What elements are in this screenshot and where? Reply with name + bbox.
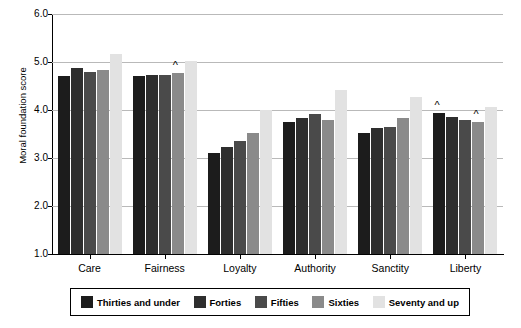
x-axis-tick-label: Sanctity (350, 262, 430, 274)
bar (185, 61, 197, 254)
bar-group (208, 14, 272, 254)
bar (260, 110, 272, 254)
y-axis-tick-label: 5.0 (6, 56, 48, 67)
legend-swatch (194, 296, 206, 308)
legend-swatch (81, 296, 93, 308)
bar (159, 75, 171, 254)
bar (208, 153, 220, 254)
bar (71, 68, 83, 254)
significance-marker: ^ (434, 100, 439, 111)
legend-label: Sixties (328, 297, 359, 308)
y-axis-tick-mark (48, 254, 52, 255)
bar-group: ^^ (433, 14, 497, 254)
bar (335, 90, 347, 254)
x-axis-tick-label: Fairness (125, 262, 205, 274)
bar-chart: Moral foundation score 1.02.03.04.05.06.… (0, 0, 521, 328)
legend-item: Fifties (255, 296, 299, 308)
significance-marker: ^ (173, 60, 178, 71)
legend-swatch (373, 296, 385, 308)
bar-group (58, 14, 122, 254)
x-axis-tick-mark (165, 255, 166, 259)
legend-label: Forties (210, 297, 242, 308)
bar (433, 113, 445, 254)
bar (459, 120, 471, 254)
bar (472, 122, 484, 254)
legend-item: Thirties and under (81, 296, 180, 308)
y-axis-title: Moral foundation score (17, 6, 28, 226)
bar (172, 73, 184, 254)
significance-marker: ^ (473, 109, 478, 120)
x-axis-tick-mark (90, 255, 91, 259)
bar (234, 141, 246, 254)
legend-swatch (312, 296, 324, 308)
bar (247, 133, 259, 254)
x-axis-tick-mark (240, 255, 241, 259)
legend-item: Sixties (312, 296, 359, 308)
x-axis-tick-label: Care (50, 262, 130, 274)
bar (446, 117, 458, 254)
bar (133, 76, 145, 254)
y-axis-tick-label: 1.0 (6, 248, 48, 259)
legend: Thirties and underFortiesFiftiesSixtiesS… (70, 288, 470, 316)
bar (485, 107, 497, 254)
x-axis-tick-label: Loyalty (200, 262, 280, 274)
x-axis-tick-label: Authority (275, 262, 355, 274)
x-axis-tick-label: Liberty (425, 262, 505, 274)
y-axis-tick-label: 6.0 (6, 8, 48, 19)
bar (309, 114, 321, 254)
x-axis-tick-mark (390, 255, 391, 259)
legend-item: Seventy and up (373, 296, 459, 308)
bar (410, 97, 422, 254)
bar (221, 147, 233, 254)
bar (58, 76, 70, 254)
x-axis-tick-mark (315, 255, 316, 259)
legend-label: Seventy and up (389, 297, 459, 308)
bar (384, 127, 396, 254)
bar (84, 72, 96, 254)
bar (397, 118, 409, 254)
x-axis-tick-mark (465, 255, 466, 259)
bar (322, 120, 334, 254)
legend-label: Fifties (271, 297, 299, 308)
bar (110, 54, 122, 254)
legend-swatch (255, 296, 267, 308)
bar (358, 133, 370, 254)
bar-group: ^ (133, 14, 197, 254)
x-axis-line (52, 254, 504, 255)
bar (371, 128, 383, 254)
legend-label: Thirties and under (97, 297, 180, 308)
bar-group (283, 14, 347, 254)
bar (296, 118, 308, 254)
bar (97, 70, 109, 254)
y-axis-tick-label: 3.0 (6, 152, 48, 163)
plot-area: ^^^ (52, 14, 503, 254)
y-axis-tick-label: 2.0 (6, 200, 48, 211)
bar (146, 75, 158, 254)
y-axis-tick-label: 4.0 (6, 104, 48, 115)
bar (283, 122, 295, 254)
legend-item: Forties (194, 296, 242, 308)
bar-group (358, 14, 422, 254)
